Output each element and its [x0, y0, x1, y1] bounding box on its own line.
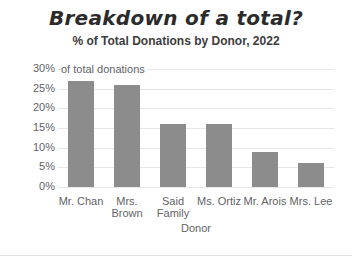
bar	[298, 163, 324, 187]
y-tick-label: 5%	[0, 160, 55, 173]
y-tick-label: 15%	[0, 121, 55, 134]
y-axis-title: of total donations	[61, 63, 148, 76]
gridline	[58, 187, 334, 188]
bar	[160, 124, 186, 187]
y-tick-label: 20%	[0, 101, 55, 114]
bar	[252, 152, 278, 187]
chart-title: Breakdown of a total?	[8, 5, 344, 31]
x-category-label: Mrs. Lee	[288, 196, 334, 208]
y-tick-label: 10%	[0, 141, 55, 154]
chart-figure: Breakdown of a total? % of Total Donatio…	[0, 0, 352, 256]
bar	[68, 81, 94, 187]
gridline	[58, 167, 334, 168]
y-tick-label: 30%	[0, 62, 55, 75]
bar	[206, 124, 232, 187]
x-category-label: Mr. Chan	[58, 196, 104, 208]
bar	[114, 85, 140, 187]
x-category-label: Mr. Arois	[242, 196, 288, 208]
gridline	[58, 148, 334, 149]
gridline	[58, 108, 334, 109]
x-category-label: Mrs. Brown	[104, 196, 150, 219]
gridline	[58, 89, 334, 90]
x-axis-title: Donor	[58, 222, 334, 234]
x-category-label: Said Family	[150, 196, 196, 219]
plot-area: 0%5%10%15%20%25%30% of total donations M…	[0, 58, 352, 256]
y-tick-label: 25%	[0, 82, 55, 95]
gridline	[58, 128, 334, 129]
chart-subtitle: % of Total Donations by Donor, 2022	[0, 34, 352, 48]
x-category-label: Ms. Ortiz	[196, 196, 242, 208]
y-tick-label: 0%	[0, 180, 55, 193]
